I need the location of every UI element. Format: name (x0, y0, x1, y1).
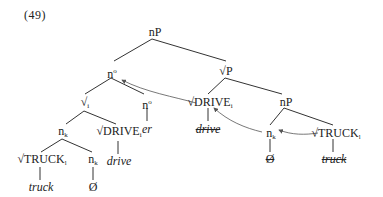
null-left: Ø (89, 181, 98, 193)
node-nk-left: nk (58, 125, 68, 141)
node-truck-left: √TRUCKl (17, 153, 66, 169)
node-n-head: no (107, 65, 117, 80)
node-nk-left2: nk (88, 153, 98, 169)
word-drive-left: drive (107, 155, 132, 167)
word-er: er (142, 123, 152, 135)
node-n-er: no (142, 96, 152, 111)
example-number: (49) (24, 9, 46, 21)
word-truck-left: truck (29, 181, 54, 193)
node-sqrtP: √P (219, 65, 232, 77)
word-truck-right-deleted: truck (322, 153, 347, 165)
node-sqrt-i: √i (81, 96, 90, 112)
node-truck-right: √TRUCKl (311, 127, 360, 143)
node-root-nP: nP (149, 26, 162, 38)
null-right-deleted: Ø (266, 153, 275, 165)
syntax-tree: (49) nP no √P √i no er nk √DRIVEi drive … (0, 0, 383, 197)
node-nP-right: nP (280, 96, 293, 108)
node-nk-right: nk (266, 127, 276, 143)
node-drive-right: √DRIVEi (187, 96, 232, 112)
word-drive-right-deleted: drive (196, 123, 221, 135)
node-drive-left: √DRIVEi (96, 125, 141, 141)
